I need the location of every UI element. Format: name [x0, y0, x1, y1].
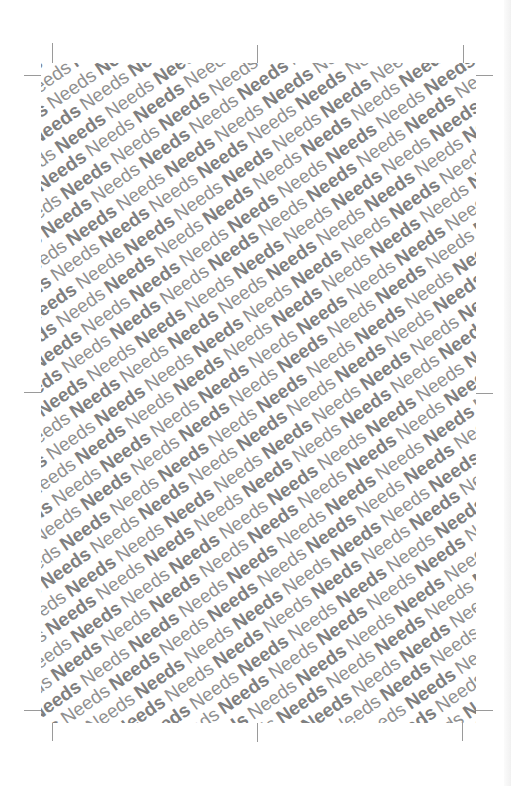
crop-mark-bottom-right-horizontal — [476, 710, 493, 711]
patterned-sheet: NeedsNeedsNeedsNeedsNeedsNeedsNeedsNeeds… — [41, 63, 476, 723]
crop-mark-top-left-horizontal — [24, 75, 41, 76]
page-edge-shadow — [504, 0, 511, 786]
crop-mark-middle-right — [476, 393, 493, 394]
crop-mark-middle-left — [24, 392, 41, 393]
crop-mark-top-right-vertical — [463, 45, 464, 63]
crop-mark-bottom-left-vertical — [52, 723, 53, 741]
crop-mark-top-right-horizontal — [476, 75, 493, 76]
crop-mark-top-left-vertical — [52, 43, 53, 63]
crop-mark-top-center — [257, 45, 258, 63]
crop-mark-bottom-left-horizontal — [24, 710, 41, 711]
needs-text-pattern: NeedsNeedsNeedsNeedsNeedsNeedsNeedsNeeds… — [41, 63, 476, 723]
crop-mark-bottom-center — [257, 723, 258, 742]
crop-mark-bottom-right-vertical — [462, 723, 463, 741]
